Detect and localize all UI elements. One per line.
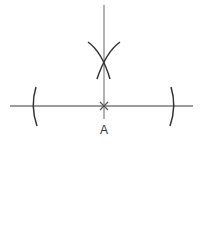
point-a-label: A <box>100 124 108 136</box>
